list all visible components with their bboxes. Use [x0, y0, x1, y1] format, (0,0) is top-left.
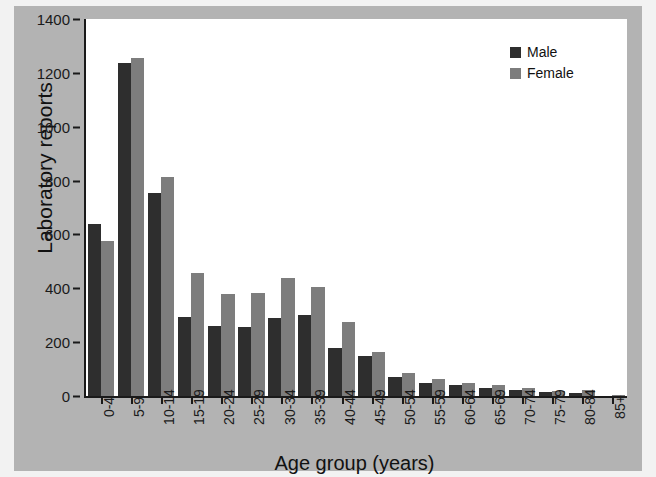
x-tick-label: 60-64: [462, 389, 478, 425]
bar-male-15-19: [178, 317, 191, 396]
x-tick-label: 65-69: [492, 389, 508, 425]
x-tick-label: 45-49: [372, 389, 388, 425]
bar-group: [387, 19, 417, 396]
y-tick-label: 800: [45, 172, 80, 189]
legend-swatch-male-icon: [510, 47, 521, 58]
x-tick: 40-44: [327, 398, 357, 456]
bar-male-20-24: [208, 326, 221, 396]
bar-male-5-9: [118, 63, 131, 396]
x-tick: 15-19: [176, 398, 206, 456]
x-tick: 65-69: [477, 398, 507, 456]
x-tick-label: 75-79: [552, 389, 568, 425]
bar-female-25-29: [251, 293, 264, 396]
x-tick: 20-24: [206, 398, 236, 456]
x-tick-label: 0-4: [101, 397, 117, 417]
y-tick-label: 1000: [37, 118, 80, 135]
bar-group: [357, 19, 387, 396]
x-tick-label: 30-34: [281, 389, 297, 425]
x-tick-label: 55-59: [432, 389, 448, 425]
bar-male-35-39: [298, 315, 311, 396]
x-tick: 75-79: [537, 398, 567, 456]
y-tick-label: 600: [45, 226, 80, 243]
bar-group: [327, 19, 357, 396]
bar-female-15-19: [191, 273, 204, 396]
bar-group: [176, 19, 206, 396]
bar-group: [477, 19, 507, 396]
bar-female-5-9: [131, 58, 144, 396]
chart-legend: Male Female: [510, 44, 574, 86]
bar-group: [146, 19, 176, 396]
x-tick: 35-39: [296, 398, 326, 456]
x-tick-label: 35-39: [311, 389, 327, 425]
bar-male-55-59: [419, 383, 432, 396]
bar-male-0-4: [88, 224, 101, 396]
bar-group: [296, 19, 326, 396]
x-tick: 10-14: [146, 398, 176, 456]
y-axis-ticks: 0200400600800100012001400: [14, 6, 84, 398]
bar-male-75-79: [539, 392, 552, 396]
x-tick-label: 80-84: [582, 389, 598, 425]
bar-group: [206, 19, 236, 396]
x-tick: 70-74: [507, 398, 537, 456]
legend-label-male: Male: [527, 44, 557, 60]
legend-swatch-female-icon: [510, 68, 521, 79]
x-tick: 0-4: [86, 398, 116, 456]
bar-group: [597, 19, 627, 396]
bar-male-10-14: [148, 193, 161, 396]
x-tick-label: 40-44: [342, 389, 358, 425]
bar-group: [236, 19, 266, 396]
y-tick-label: 1200: [37, 64, 80, 81]
x-tick-label: 10-14: [161, 389, 177, 425]
bar-female-0-4: [101, 241, 114, 396]
bar-male-65-69: [479, 388, 492, 396]
bar-male-50-54: [388, 377, 401, 396]
bar-male-25-29: [238, 327, 251, 396]
chart-figure: Laboratory reports 020040060080010001200…: [14, 6, 642, 471]
legend-item-female: Female: [510, 65, 574, 81]
x-tick: 50-54: [387, 398, 417, 456]
bar-female-30-34: [281, 278, 294, 396]
y-tick-label: 400: [45, 280, 80, 297]
x-tick: 80-84: [567, 398, 597, 456]
bar-group: [86, 19, 116, 396]
bar-group: [266, 19, 296, 396]
bar-group: [116, 19, 146, 396]
x-tick-label: 20-24: [221, 389, 237, 425]
bar-female-35-39: [311, 287, 324, 396]
bar-female-40-44: [342, 322, 355, 396]
bar-male-80-84: [569, 393, 582, 396]
bar-male-40-44: [328, 348, 341, 396]
x-tick-label: 5-9: [131, 397, 147, 417]
x-tick: 85+: [597, 398, 627, 456]
bar-female-20-24: [221, 294, 234, 396]
x-tick: 60-64: [447, 398, 477, 456]
bar-female-10-14: [161, 177, 174, 396]
bar-group: [447, 19, 477, 396]
x-tick-label: 25-29: [251, 389, 267, 425]
x-tick-label: 70-74: [522, 389, 538, 425]
x-tick: 55-59: [417, 398, 447, 456]
x-tick-label: 50-54: [402, 389, 418, 425]
x-tick: 25-29: [236, 398, 266, 456]
bar-group: [417, 19, 447, 396]
y-tick-label: 1400: [37, 11, 80, 28]
x-axis-ticks: 0-45-910-1415-1920-2425-2930-3435-3940-4…: [86, 398, 627, 456]
x-axis-title: Age group (years): [84, 452, 625, 475]
bar-male-30-34: [268, 318, 281, 396]
x-tick: 5-9: [116, 398, 146, 456]
x-tick-label: 15-19: [191, 389, 207, 425]
x-tick: 30-34: [266, 398, 296, 456]
bar-male-70-74: [509, 390, 522, 396]
y-tick-label: 200: [45, 334, 80, 351]
legend-item-male: Male: [510, 44, 574, 60]
y-tick-label: 0: [62, 388, 80, 405]
bar-male-60-64: [449, 385, 462, 396]
legend-label-female: Female: [527, 65, 574, 81]
x-tick: 45-49: [357, 398, 387, 456]
x-tick-label: 85+: [612, 395, 628, 419]
bar-male-45-49: [358, 356, 371, 396]
